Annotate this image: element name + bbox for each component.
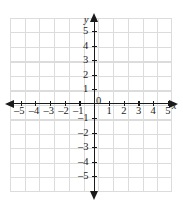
x-tick-label: 1 — [106, 106, 111, 117]
y-axis-tick — [92, 176, 97, 177]
y-axis-tick — [92, 133, 97, 134]
coordinate-plane: –5–4–3–2–1 12345 54321 –1–2–3–4–5 0 x y — [0, 0, 183, 205]
x-tick-label: 4 — [151, 106, 156, 117]
origin-label: 0 — [96, 95, 101, 106]
y-tick-label: –5 — [78, 171, 89, 182]
y-tick-label: 3 — [83, 55, 88, 66]
x-tick-label: 2 — [121, 106, 126, 117]
y-tick-label: –4 — [78, 157, 89, 168]
y-tick-label: 2 — [83, 70, 88, 81]
y-axis-up-arrowhead-icon — [90, 13, 98, 22]
x-tick-label: –4 — [29, 106, 40, 117]
x-axis-name-label: x — [172, 100, 176, 111]
y-axis-tick — [92, 147, 97, 148]
y-axis-tick — [92, 162, 97, 163]
x-tick-label: 5 — [165, 106, 170, 117]
x-tick-label: –3 — [44, 106, 55, 117]
x-tick-label: –5 — [14, 106, 25, 117]
x-axis-left-arrowhead-icon — [5, 100, 14, 108]
y-axis-down-arrowhead-icon — [90, 191, 98, 200]
y-axis-tick — [92, 118, 97, 119]
y-tick-label: –2 — [78, 128, 89, 139]
y-tick-label: –3 — [78, 142, 89, 153]
y-axis-name-label: y — [84, 14, 88, 25]
y-tick-label: –1 — [78, 113, 89, 124]
y-axis-tick — [92, 89, 97, 90]
y-axis-tick — [92, 60, 97, 61]
y-tick-label: 1 — [83, 84, 88, 95]
y-tick-label: 5 — [83, 26, 88, 37]
y-axis-tick — [92, 31, 97, 32]
y-axis-tick — [92, 75, 97, 76]
x-tick-label: –2 — [58, 106, 69, 117]
y-tick-label: 4 — [83, 41, 88, 52]
y-axis-tick — [92, 46, 97, 47]
x-tick-label: 3 — [136, 106, 141, 117]
